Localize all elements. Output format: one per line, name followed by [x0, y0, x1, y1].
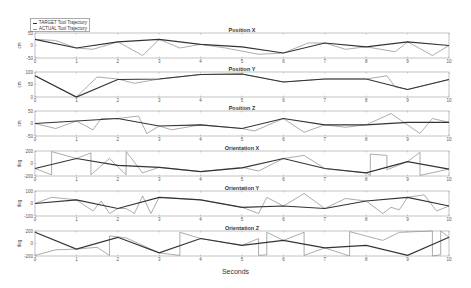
y-tick-label: 50 — [28, 31, 34, 36]
x-tick-label: 4 — [199, 59, 202, 64]
x-tick-label: 0 — [34, 59, 37, 64]
x-tick-label: 6 — [282, 137, 285, 142]
y-tick-label: 200 — [25, 229, 33, 234]
y-tick-label: -200 — [24, 254, 34, 259]
x-tick-label: 9 — [406, 137, 409, 142]
x-tick-label: 10 — [446, 177, 452, 182]
subplot-position-z: Position Z012345678910-50050cm — [17, 105, 452, 143]
x-tick-label: 6 — [282, 59, 285, 64]
x-tick-label: 10 — [446, 257, 452, 262]
x-tick-label: 1 — [75, 98, 78, 103]
subplot-orientation-z: Orientation Z012345678910-2000200deg — [17, 225, 452, 263]
x-tick-label: 1 — [75, 59, 78, 64]
x-tick-label: 9 — [406, 217, 409, 222]
y-axis-label: deg — [17, 199, 22, 207]
y-axis-label: deg — [17, 239, 22, 247]
x-tick-label: 2 — [117, 98, 120, 103]
x-tick-label: 4 — [199, 98, 202, 103]
x-tick-label: 5 — [241, 98, 244, 103]
x-axis-label: Seconds — [0, 268, 471, 275]
x-tick-label: 8 — [365, 98, 368, 103]
y-tick-label: 0 — [30, 161, 33, 166]
x-tick-label: 9 — [406, 98, 409, 103]
x-tick-label: 7 — [324, 137, 327, 142]
y-tick-label: 0 — [30, 241, 33, 246]
x-tick-label: 6 — [282, 257, 285, 262]
x-tick-label: 6 — [282, 177, 285, 182]
y-axis-label: cm — [17, 120, 22, 126]
x-tick-label: 3 — [158, 177, 161, 182]
y-tick-label: -50 — [26, 56, 33, 61]
figure: Position X012345678910-50050cmPosition Y… — [0, 0, 471, 288]
y-tick-label: 50 — [28, 109, 34, 114]
x-tick-label: 10 — [446, 98, 452, 103]
y-tick-label: 100 — [25, 189, 33, 194]
x-tick-label: 8 — [365, 177, 368, 182]
x-tick-label: 2 — [117, 59, 120, 64]
x-tick-label: 6 — [282, 217, 285, 222]
y-axis-label: deg — [17, 159, 22, 167]
x-tick-label: 3 — [158, 59, 161, 64]
x-tick-label: 0 — [34, 257, 37, 262]
x-tick-label: 7 — [324, 177, 327, 182]
x-tick-label: 9 — [406, 257, 409, 262]
subplot-title: Orientation Y — [225, 185, 260, 191]
x-tick-label: 8 — [365, 257, 368, 262]
subplot-orientation-y: Orientation Y012345678910-1000100deg — [17, 185, 452, 223]
x-tick-label: 2 — [117, 137, 120, 142]
axes-box — [35, 191, 449, 216]
x-tick-label: 5 — [241, 217, 244, 222]
subplot-position-x: Position X012345678910-50050cm — [17, 27, 452, 65]
x-tick-label: 1 — [75, 177, 78, 182]
x-tick-label: 7 — [324, 257, 327, 262]
x-tick-label: 7 — [324, 59, 327, 64]
x-tick-label: 5 — [241, 177, 244, 182]
x-tick-label: 1 — [75, 257, 78, 262]
x-tick-label: 1 — [75, 217, 78, 222]
x-tick-label: 4 — [199, 257, 202, 262]
y-axis-label: cm — [17, 42, 22, 48]
y-tick-label: -100 — [24, 214, 34, 219]
x-tick-label: 0 — [34, 137, 37, 142]
subplot-title: Orientation Z — [225, 225, 260, 231]
x-tick-label: 9 — [406, 59, 409, 64]
y-axis-label: cm — [17, 81, 22, 87]
x-tick-label: 0 — [34, 98, 37, 103]
x-tick-label: 2 — [117, 257, 120, 262]
x-tick-label: 3 — [158, 257, 161, 262]
y-tick-label: -50 — [26, 134, 33, 139]
x-tick-label: 8 — [365, 137, 368, 142]
y-tick-label: 0 — [30, 121, 33, 126]
x-tick-label: 0 — [34, 217, 37, 222]
x-tick-label: 6 — [282, 98, 285, 103]
x-tick-label: 9 — [406, 177, 409, 182]
x-tick-label: 8 — [365, 59, 368, 64]
x-tick-label: 4 — [199, 217, 202, 222]
x-tick-label: 10 — [446, 217, 452, 222]
y-tick-label: 50 — [28, 82, 34, 87]
subplot-title: Orientation X — [225, 145, 260, 151]
x-tick-label: 1 — [75, 137, 78, 142]
y-tick-label: 0 — [30, 43, 33, 48]
x-tick-label: 3 — [158, 98, 161, 103]
x-tick-label: 4 — [199, 177, 202, 182]
x-tick-label: 2 — [117, 177, 120, 182]
x-tick-label: 8 — [365, 217, 368, 222]
subplot-title: Position Y — [229, 66, 256, 72]
y-tick-label: 100 — [25, 70, 33, 75]
x-tick-label: 5 — [241, 59, 244, 64]
y-tick-label: -200 — [24, 174, 34, 179]
y-tick-label: 0 — [30, 201, 33, 206]
x-tick-label: 5 — [241, 257, 244, 262]
x-tick-label: 7 — [324, 217, 327, 222]
subplot-orientation-x: Orientation X012345678910-2000200deg — [17, 145, 452, 183]
subplot-title: Position X — [229, 27, 256, 33]
subplot-position-y: Position Y012345678910050100cm — [17, 66, 452, 104]
x-tick-label: 7 — [324, 98, 327, 103]
x-tick-label: 10 — [446, 137, 452, 142]
x-tick-label: 2 — [117, 217, 120, 222]
y-tick-label: 200 — [25, 149, 33, 154]
x-tick-label: 5 — [241, 137, 244, 142]
subplot-title: Position Z — [229, 105, 256, 111]
x-tick-label: 3 — [158, 137, 161, 142]
